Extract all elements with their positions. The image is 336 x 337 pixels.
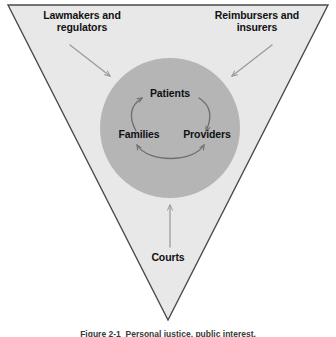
label-patients: Patients bbox=[135, 87, 205, 99]
label-families: Families bbox=[104, 128, 174, 140]
label-providers: Providers bbox=[168, 128, 246, 140]
diagram-canvas bbox=[0, 0, 336, 337]
label-courts: Courts bbox=[131, 251, 205, 263]
figure-caption: Figure 2-1 Personal justice, public inte… bbox=[0, 329, 336, 337]
label-reimbursers-and-insurers: Reimbursers and insurers bbox=[196, 9, 318, 34]
figure-container: Lawmakers and regulators Reimbursers and… bbox=[0, 0, 336, 337]
label-lawmakers-and-regulators: Lawmakers and regulators bbox=[23, 9, 141, 34]
